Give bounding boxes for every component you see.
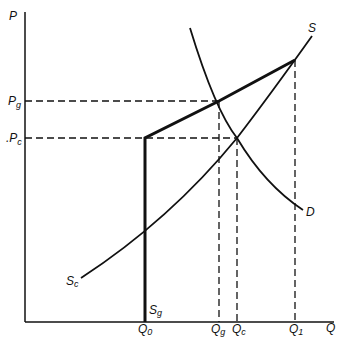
qc-label: Qc	[232, 322, 246, 337]
sg-curve-label: Sg	[149, 303, 162, 318]
demand-curve	[190, 28, 303, 210]
pg-label: Pg	[8, 94, 21, 110]
q0-label: Q0	[138, 322, 152, 337]
d-curve-label: D	[306, 205, 315, 219]
x-axis-label: Q	[326, 321, 335, 335]
economics-diagram: P Q Pg .Pc Q0 Qg Qc Q1 S D Sc Sg	[0, 0, 344, 338]
supply-curve-sc	[81, 36, 312, 278]
y-axis-label: P	[9, 9, 17, 23]
qg-label: Qg	[211, 322, 225, 337]
s-curve-label: S	[308, 21, 316, 35]
supply-curve-sg	[145, 60, 295, 322]
pc-label: .Pc	[6, 131, 22, 147]
q1-label: Q1	[289, 322, 303, 337]
sc-curve-label: Sc	[66, 274, 79, 289]
